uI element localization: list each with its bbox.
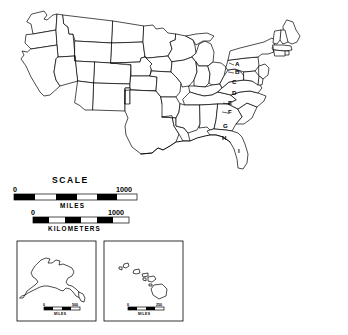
state-label-d: D: [232, 89, 237, 96]
scale-km-seg-2: [49, 217, 65, 223]
hawaii-scale-min: 0: [127, 303, 129, 307]
state-label-b: B: [235, 68, 240, 75]
state-label-f: F: [228, 108, 232, 115]
state-wyoming: [75, 41, 112, 63]
alaska-scale-unit: MILES: [54, 312, 67, 316]
state-label-h: H: [222, 134, 227, 141]
alaska-scale-seg-3: [62, 307, 71, 310]
state-label-i: I: [238, 147, 240, 154]
scale-miles-min: 0: [13, 185, 17, 194]
scale-km-seg-1: [33, 217, 49, 223]
scale-miles-seg-4: [77, 194, 97, 200]
alaska-scale-seg-2: [53, 307, 62, 310]
state-new-mexico: [93, 83, 130, 111]
state-connecticut: [274, 50, 285, 56]
scale-km-seg-5: [97, 217, 113, 223]
state-label-e: E: [228, 99, 232, 106]
hawaii-scale-seg-2: [137, 307, 146, 310]
scale-miles-seg-6: [117, 194, 137, 200]
alaska-scale-seg-1: [44, 307, 53, 310]
hawaii-scale-seg-1: [128, 307, 137, 310]
state-label-a: A: [235, 60, 240, 67]
hawaii-scale-unit: MILES: [138, 312, 151, 316]
hawaii-scale-max: 250: [156, 303, 162, 307]
state-arkansas: [161, 97, 180, 118]
state-label-g: G: [223, 122, 228, 129]
scale-miles-seg-2: [35, 194, 56, 200]
state-kansas: [130, 76, 157, 91]
scale-km-seg-3: [65, 217, 81, 223]
scale-km-seg-4: [81, 217, 97, 223]
scale-km-max: 1000: [108, 208, 124, 217]
alaska-scale-max: 500: [72, 303, 78, 307]
state-indiana: [194, 62, 210, 87]
scale-km-min: 0: [31, 208, 35, 217]
inset-alaska: 0 500 MILES: [17, 241, 96, 321]
scale-miles-unit: MILES: [60, 202, 85, 209]
hawaii-island-molokai: [142, 273, 148, 277]
state-label-c: C: [232, 78, 237, 85]
state-south-dakota: [111, 42, 145, 63]
hawaii-island-kahoolawe: [149, 284, 152, 286]
alaska-scale-min: 0: [43, 303, 45, 307]
state-colorado: [94, 62, 131, 84]
map-svg: A B C D E F G H I SCALE 0 1000 MILES: [0, 0, 348, 335]
scale-km-seg-6: [113, 217, 129, 223]
hawaii-island-oahu: [133, 269, 140, 274]
inset-hawaii: 0 250 MILES: [104, 241, 183, 321]
scale-title: SCALE: [52, 175, 89, 185]
hawaii-scale-seg-3: [146, 307, 155, 310]
alaska-scale-seg-4: [71, 307, 80, 310]
scale-miles-seg-1: [14, 194, 35, 200]
us-map-figure: A B C D E F G H I SCALE 0 1000 MILES: [0, 0, 348, 335]
hawaii-scale-seg-4: [155, 307, 164, 310]
state-rhode-island: [285, 51, 289, 55]
scale-km-unit: KILOMETERS: [48, 225, 101, 232]
state-nevada: [54, 56, 78, 86]
scale-miles-seg-5: [97, 194, 117, 200]
scale-miles-seg-3: [56, 194, 77, 200]
scale-miles-max: 1000: [116, 185, 132, 194]
